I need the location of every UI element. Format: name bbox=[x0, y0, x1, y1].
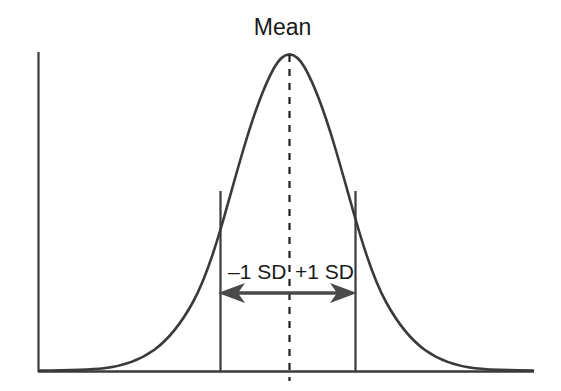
sd-positive-label: +1 SD bbox=[295, 261, 354, 282]
sd-negative-label: –1 SD bbox=[228, 261, 286, 282]
normal-distribution-figure: Mean –1 SD +1 SD bbox=[0, 0, 561, 391]
sd-span-arrow bbox=[218, 283, 357, 303]
bell-curve-chart bbox=[0, 0, 561, 391]
mean-label: Mean bbox=[2, 16, 561, 39]
normal-curve bbox=[40, 54, 533, 370]
